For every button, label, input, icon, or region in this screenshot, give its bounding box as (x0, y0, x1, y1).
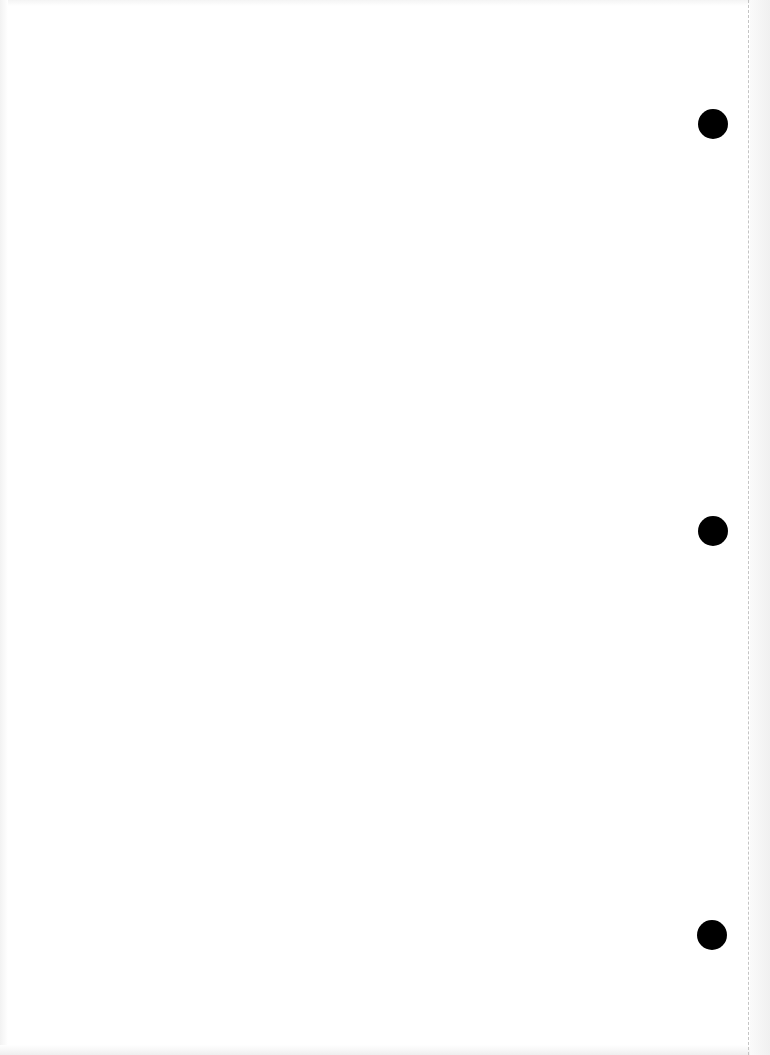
scanned-page (0, 0, 770, 1055)
bottom-scan-edge (0, 1045, 770, 1055)
punch-hole-top (698, 109, 728, 139)
perforation-line (748, 0, 749, 1055)
punch-hole-bottom (697, 920, 727, 950)
left-scan-edge (0, 0, 8, 1055)
right-margin-strip (750, 0, 770, 1055)
punch-hole-middle (698, 516, 728, 546)
top-scan-edge (0, 0, 770, 6)
